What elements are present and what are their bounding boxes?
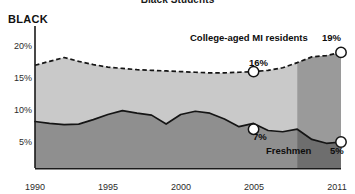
y-tick-label-15: 15% [2,73,32,83]
series-label-college-aged-residents: College-aged MI residents [190,32,308,43]
series-label-freshmen: Freshmen [266,145,311,156]
plot-area [0,0,355,194]
y-tick-label-20: 20% [2,41,32,51]
x-tick-label-1990: 1990 [25,182,45,192]
y-axis: 20% 15% 10% 5% [0,0,32,194]
chart-title: Black Students [0,0,355,5]
x-tick-label-1995: 1995 [98,182,118,192]
chart-container: Black Students BLACK 20% 15% 10% 5% 1990… [0,0,355,194]
value-label-5-percent: 5% [330,145,344,156]
y-tick-label-5: 5% [2,137,32,147]
x-tick-label-2011: 2011 [327,182,346,192]
x-tick-label-2000: 2000 [171,182,191,192]
data-point-marker-19-percent[interactable] [336,47,346,57]
value-label-16-percent: 16% [249,57,268,68]
y-tick-label-10: 10% [2,105,32,115]
value-label-7-percent: 7% [253,131,267,142]
value-label-19-percent: 19% [322,32,341,43]
x-tick-label-2005: 2005 [244,182,264,192]
